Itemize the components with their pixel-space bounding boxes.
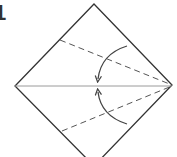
origami-diagram [0, 0, 177, 157]
paper-square-outline [15, 4, 172, 157]
